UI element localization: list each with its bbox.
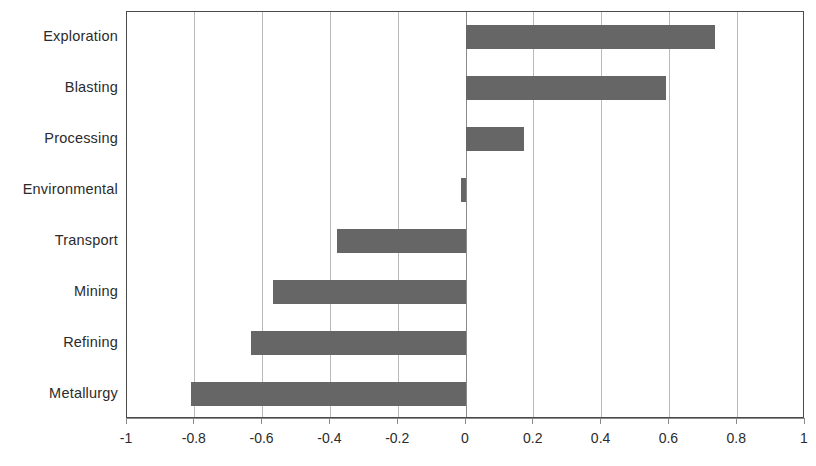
value-axis: -1-0.8-0.6-0.4-0.200.20.40.60.81 [126, 418, 804, 466]
axis-tick-label: 1 [800, 431, 808, 445]
axis-tick-label: 0.6 [659, 431, 678, 445]
category-axis: ExplorationBlastingProcessingEnvironment… [0, 11, 118, 418]
bar [461, 178, 466, 202]
plot-area [126, 11, 804, 418]
bar [337, 229, 466, 253]
gridline [194, 12, 195, 417]
axis-baseline [126, 418, 804, 419]
gridline [330, 12, 331, 417]
bar [251, 331, 466, 355]
gridline [262, 12, 263, 417]
category-label: Metallurgy [0, 386, 118, 401]
axis-tick-label: -0.2 [385, 431, 409, 445]
category-label: Mining [0, 284, 118, 299]
bar [273, 280, 466, 304]
category-label: Processing [0, 131, 118, 146]
category-label: Transport [0, 233, 118, 248]
axis-tick-label: 0.4 [591, 431, 610, 445]
bar [466, 76, 666, 100]
bar [466, 127, 524, 151]
zero-gridline [466, 12, 467, 417]
category-label: Exploration [0, 29, 118, 44]
bar-chart: ExplorationBlastingProcessingEnvironment… [0, 0, 816, 466]
bar [191, 382, 466, 406]
gridline [669, 12, 670, 417]
gridline [398, 12, 399, 417]
axis-tick-label: 0.8 [726, 431, 745, 445]
gridline [737, 12, 738, 417]
axis-tick-label: -0.6 [250, 431, 274, 445]
category-label: Environmental [0, 182, 118, 197]
gridline [533, 12, 534, 417]
category-label: Blasting [0, 80, 118, 95]
category-label: Refining [0, 335, 118, 350]
gridline [601, 12, 602, 417]
axis-tick-label: -0.8 [182, 431, 206, 445]
axis-tick-label: 0 [461, 431, 469, 445]
axis-tick-label: -0.4 [317, 431, 341, 445]
axis-tick-label: -1 [120, 431, 132, 445]
axis-tick-label: 0.2 [523, 431, 542, 445]
bar [466, 25, 715, 49]
